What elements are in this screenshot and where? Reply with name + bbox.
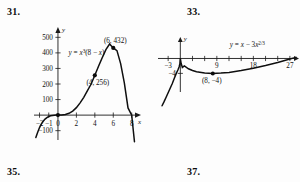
svg-text:500: 500 <box>42 34 53 42</box>
y-axis-arrow <box>55 27 60 33</box>
svg-text:(8, −4): (8, −4) <box>202 77 222 85</box>
svg-text:200: 200 <box>42 81 53 89</box>
svg-text:6: 6 <box>111 120 115 128</box>
svg-text:0: 0 <box>56 120 60 128</box>
textbook-page: 31. 33. 35. 37. −2−102468 −1001002003004… <box>0 0 300 182</box>
svg-text:(4, 256): (4, 256) <box>86 79 109 87</box>
figure-problem-31: −2−102468 −100100200300400500 (4, 256)(6… <box>8 18 148 158</box>
chart-31-svg: −2−102468 −100100200300400500 (4, 256)(6… <box>8 18 148 158</box>
data-point-labels: (8, −4) <box>202 77 222 85</box>
svg-text:4: 4 <box>93 120 97 128</box>
curve-cuberoot <box>162 57 296 105</box>
problem-number-37: 37. <box>187 166 200 177</box>
x-axis-arrow <box>135 113 141 118</box>
data-point-labels: (4, 256)(6, 432) <box>86 37 127 87</box>
svg-text:300: 300 <box>42 65 53 73</box>
equation-label: y = x3(8 − x) <box>68 48 106 57</box>
svg-text:2: 2 <box>75 120 79 128</box>
y-axis-label: y <box>183 35 188 43</box>
svg-text:9: 9 <box>215 62 219 70</box>
problem-number-31: 31. <box>7 6 20 17</box>
y-axis-label: y <box>61 26 66 34</box>
svg-text:−100: −100 <box>38 127 53 135</box>
problem-number-35: 35. <box>7 166 20 177</box>
svg-text:(6, 432): (6, 432) <box>104 37 127 45</box>
problem-number-33: 33. <box>187 6 200 17</box>
figure-problem-33: −391827 −4 (8, −4) y y = x − 3x2/3 <box>150 22 300 112</box>
y-axis-arrow <box>178 37 183 42</box>
x-axis-label: x <box>137 118 142 126</box>
equation-label: y = x − 3x2/3 <box>229 40 266 49</box>
data-points <box>211 71 215 75</box>
chart-33-svg: −391827 −4 (8, −4) y y = x − 3x2/3 <box>150 22 300 112</box>
svg-text:400: 400 <box>42 49 53 57</box>
svg-text:100: 100 <box>42 96 53 104</box>
svg-text:27: 27 <box>286 62 294 70</box>
